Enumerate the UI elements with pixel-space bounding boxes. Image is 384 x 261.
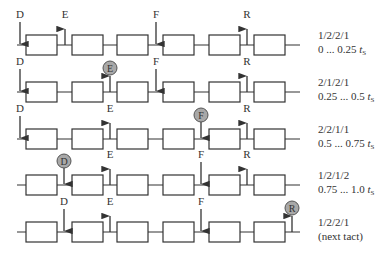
marker-d: D <box>16 102 24 138</box>
state-code-label: 1/2/2/1 <box>318 29 349 41</box>
workstation-box <box>72 129 103 149</box>
marker-d: D <box>60 195 68 231</box>
marker-label: D <box>60 195 68 207</box>
marker-label: R <box>289 203 296 214</box>
workstation-box <box>72 222 103 242</box>
workstation-box <box>72 175 103 195</box>
marker-e: E <box>107 102 114 139</box>
workstation-box <box>254 35 285 55</box>
marker-label: D <box>16 102 24 114</box>
marker-r: R <box>243 8 251 45</box>
workstation-box <box>117 222 148 242</box>
workstation-box <box>254 175 285 195</box>
workstation-box <box>26 82 57 102</box>
marker-e: E <box>62 8 69 45</box>
time-interval-label: (next tact) <box>318 230 363 243</box>
marker-label: R <box>243 8 251 20</box>
marker-label: F <box>198 195 204 207</box>
station-row-5: DEFR1/2/2/1(next tact) <box>17 195 363 243</box>
workstation-box <box>163 82 194 102</box>
marker-r: R <box>243 102 251 139</box>
workstation-box <box>254 222 285 242</box>
state-code-label: 2/2/1/1 <box>318 123 349 135</box>
marker-f: F <box>153 55 159 91</box>
marker-f: F <box>194 108 208 138</box>
marker-r: R <box>243 148 251 185</box>
marker-label: E <box>62 8 69 20</box>
workstation-box <box>26 175 57 195</box>
workstation-box <box>72 35 103 55</box>
marker-label: E <box>107 148 114 160</box>
marker-f: F <box>153 8 159 44</box>
marker-label: F <box>153 8 159 20</box>
marker-f: F <box>198 148 204 184</box>
time-interval-label: 0.5 ... 0.75 tS <box>318 137 375 151</box>
marker-label: R <box>243 55 251 67</box>
time-interval-label: 0.25 ... 0.5 tS <box>318 90 375 104</box>
state-code-label: 1/2/2/1 <box>318 216 349 228</box>
transfer-line-diagram: DEFR1/2/2/10 ... 0.25 tSDEFR2/1/2/10.25 … <box>0 0 384 261</box>
marker-label: E <box>107 102 114 114</box>
marker-label: D <box>16 8 24 20</box>
workstation-box <box>209 222 240 242</box>
workstation-box <box>117 82 148 102</box>
marker-f: F <box>198 195 204 231</box>
marker-e: E <box>107 195 114 232</box>
marker-d: D <box>16 8 24 44</box>
workstation-box <box>209 175 240 195</box>
marker-label: R <box>243 102 251 114</box>
marker-label: E <box>107 195 114 207</box>
workstation-box <box>26 222 57 242</box>
workstation-box <box>117 175 148 195</box>
marker-label: F <box>153 55 159 67</box>
marker-label: F <box>198 148 204 160</box>
marker-d: D <box>16 55 24 91</box>
station-row-4: DEFR1/2/1/20.75 ... 1.0 tS <box>17 148 375 197</box>
workstation-box <box>209 35 240 55</box>
time-interval-label: 0.75 ... 1.0 tS <box>318 183 375 197</box>
workstation-box <box>254 129 285 149</box>
workstation-box <box>163 129 194 149</box>
state-code-label: 1/2/1/2 <box>318 169 349 181</box>
workstation-box <box>254 82 285 102</box>
marker-label: D <box>60 156 67 167</box>
time-interval-label: 0 ... 0.25 tS <box>318 43 366 57</box>
marker-label: R <box>243 148 251 160</box>
marker-label: F <box>198 110 204 121</box>
workstation-box <box>209 82 240 102</box>
workstation-box <box>163 175 194 195</box>
marker-d: D <box>57 154 71 184</box>
marker-label: E <box>107 63 113 74</box>
workstation-box <box>163 222 194 242</box>
workstation-box <box>117 129 148 149</box>
workstation-box <box>72 82 103 102</box>
marker-r: R <box>243 55 251 92</box>
marker-r: R <box>285 201 299 232</box>
marker-e: E <box>103 61 117 92</box>
marker-e: E <box>107 148 114 185</box>
state-code-label: 2/1/2/1 <box>318 76 349 88</box>
workstation-box <box>163 35 194 55</box>
workstation-box <box>26 129 57 149</box>
workstation-box <box>209 129 240 149</box>
station-row-2: DEFR2/1/2/10.25 ... 0.5 tS <box>16 55 375 104</box>
workstation-box <box>117 35 148 55</box>
workstation-box <box>26 35 57 55</box>
station-row-1: DEFR1/2/2/10 ... 0.25 tS <box>16 8 366 57</box>
station-row-3: DEFR2/2/1/10.5 ... 0.75 tS <box>16 102 375 151</box>
marker-label: D <box>16 55 24 67</box>
